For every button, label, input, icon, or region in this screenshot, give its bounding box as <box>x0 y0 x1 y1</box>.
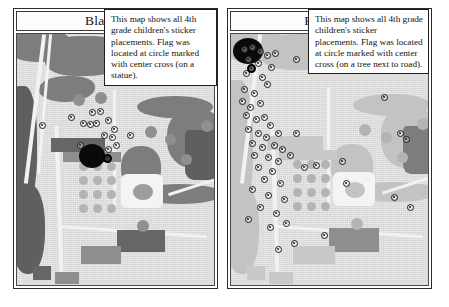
tree <box>95 92 107 104</box>
building <box>33 266 51 280</box>
tree <box>79 190 88 199</box>
sticker-marker <box>264 81 271 88</box>
callout-red-flag: This map shows all 4th grade children's … <box>308 9 429 74</box>
sticker-marker <box>275 130 282 137</box>
sticker-marker <box>272 50 279 57</box>
tree <box>307 202 316 211</box>
tree <box>321 160 330 169</box>
sticker-marker <box>407 204 414 211</box>
sticker-marker <box>127 132 134 139</box>
sticker-marker <box>245 126 252 133</box>
sticker-marker <box>109 134 116 141</box>
sticker-marker <box>397 130 404 137</box>
tree <box>93 204 102 213</box>
sticker-marker <box>267 122 274 129</box>
tree <box>321 188 330 197</box>
sticker-marker <box>113 142 120 149</box>
sticker-marker <box>279 146 286 153</box>
sticker-marker <box>249 44 256 51</box>
sticker-marker <box>391 194 398 201</box>
tree <box>145 126 157 138</box>
sticker-marker <box>245 216 252 223</box>
sticker-marker <box>241 46 248 53</box>
tree <box>351 218 363 230</box>
sticker-marker <box>287 152 294 159</box>
sticker-marker <box>321 232 328 239</box>
sticker-marker <box>259 144 266 151</box>
sticker-marker <box>275 246 282 253</box>
sticker-marker <box>339 158 346 165</box>
sticker-marker <box>281 196 288 203</box>
terrain-blob <box>403 126 429 174</box>
sticker-marker <box>291 240 298 247</box>
tree <box>93 190 102 199</box>
sticker-marker <box>255 60 262 67</box>
tree <box>107 204 116 213</box>
sticker-marker <box>249 140 256 147</box>
sticker-marker <box>247 104 254 111</box>
tree <box>307 174 316 183</box>
tree <box>293 188 302 197</box>
sticker-marker <box>68 114 75 121</box>
sticker-marker <box>255 164 262 171</box>
sticker-marker <box>241 86 248 93</box>
building <box>81 246 121 264</box>
sticker-marker <box>283 220 290 227</box>
tree <box>137 220 149 232</box>
sticker-marker <box>265 192 272 199</box>
tree <box>79 204 88 213</box>
terrain-blob <box>16 184 45 274</box>
sticker-marker <box>275 158 282 165</box>
tree <box>79 176 88 185</box>
sticker-marker <box>105 146 112 153</box>
sticker-marker <box>245 56 252 63</box>
sticker-marker <box>261 114 268 121</box>
building <box>293 246 335 264</box>
sticker-marker <box>253 116 260 123</box>
tree <box>417 118 429 130</box>
tree <box>181 154 192 165</box>
sticker-marker <box>273 210 280 217</box>
building <box>329 228 379 252</box>
callout-black-flag: This map shows all 4th grade children's … <box>104 9 217 86</box>
sticker-marker <box>263 134 270 141</box>
tree <box>93 176 102 185</box>
callout-text: This map shows all 4th grade children's … <box>111 14 199 80</box>
sticker-marker <box>381 94 388 101</box>
sticker-marker <box>101 132 108 139</box>
sticker-marker <box>267 224 274 231</box>
tree <box>201 120 213 132</box>
building <box>55 272 79 284</box>
sticker-marker <box>257 100 264 107</box>
panel-black-flag: Black Flag <box>13 8 218 289</box>
tree <box>397 152 408 163</box>
tree <box>293 202 302 211</box>
sticker-marker <box>301 164 308 171</box>
tree <box>107 190 116 199</box>
sticker-marker <box>97 108 104 115</box>
sticker-marker <box>257 48 264 55</box>
sticker-marker <box>255 130 262 137</box>
tree <box>381 132 392 143</box>
sticker-marker <box>293 130 300 137</box>
sticker-marker <box>259 74 266 81</box>
plaza-center <box>133 184 153 200</box>
sticker-marker <box>261 176 268 183</box>
tree <box>107 162 116 171</box>
sticker-marker <box>39 122 46 129</box>
building <box>247 266 265 280</box>
sticker-marker <box>239 98 246 105</box>
tree <box>321 174 330 183</box>
sticker-marker <box>249 186 256 193</box>
sticker-marker <box>243 112 250 119</box>
sticker-marker <box>77 142 84 149</box>
tree <box>359 124 371 136</box>
sticker-marker <box>277 180 284 187</box>
panel-red-flag: Red Flag <box>227 8 432 289</box>
sticker-marker <box>271 142 278 149</box>
terrain-blob <box>230 184 259 274</box>
tree <box>293 174 302 183</box>
building <box>117 230 165 252</box>
sticker-marker <box>257 204 264 211</box>
sticker-marker <box>265 154 272 161</box>
